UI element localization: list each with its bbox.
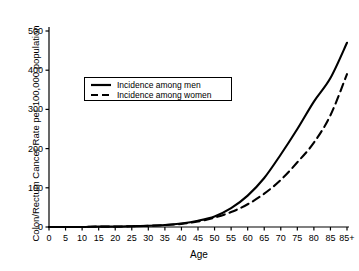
legend-label-men: Incidence among men: [117, 80, 201, 90]
x-tick-label: 40: [176, 234, 186, 243]
x-tick-label: 65: [259, 234, 269, 243]
chart-container: 0100200300400500 05101520253035404550556…: [0, 0, 359, 271]
x-tick-label: 25: [127, 234, 137, 243]
x-tick-label: 50: [210, 234, 220, 243]
legend-line-dashed-icon: [90, 90, 112, 100]
x-tick-label: 30: [143, 234, 153, 243]
x-tick-label: 85: [325, 234, 335, 243]
x-tick-label: 35: [160, 234, 170, 243]
x-tick-label: 75: [292, 234, 302, 243]
x-tick-label: 80: [309, 234, 319, 243]
x-axis-title: Age: [49, 249, 349, 261]
x-tick-label: 20: [110, 234, 120, 243]
chart-legend: Incidence among men Incidence among wome…: [84, 77, 232, 101]
legend-line-solid-icon: [90, 80, 112, 90]
x-tick-label: 55: [226, 234, 236, 243]
series-group: [49, 43, 347, 227]
axes-group: [46, 27, 350, 231]
legend-label-women: Incidence among women: [117, 90, 212, 100]
x-tick-label: 5: [63, 234, 68, 243]
x-tick-label: 70: [276, 234, 286, 243]
x-tick-label: 45: [193, 234, 203, 243]
x-tick-label: 85+: [339, 234, 354, 243]
x-tick-label: 10: [77, 234, 87, 243]
x-tick-label: 60: [243, 234, 253, 243]
x-tick-label: 15: [94, 234, 104, 243]
chart-plot-area: [0, 0, 359, 271]
legend-item-women: Incidence among women: [90, 89, 212, 100]
x-tick-label: 0: [46, 234, 51, 243]
y-axis-title: Colon/Rectum Cancer Rate per 100,000 pop…: [30, 19, 41, 249]
series-line-men: [49, 43, 347, 227]
